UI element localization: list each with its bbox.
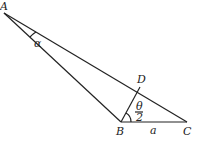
segment-AB bbox=[4, 13, 121, 122]
label-a: a bbox=[150, 124, 157, 137]
label-D: D bbox=[136, 73, 146, 86]
label-two: 2 bbox=[135, 111, 143, 124]
label-alpha: α bbox=[34, 37, 42, 50]
triangle-diagram: A B C D α θ 2 a bbox=[0, 0, 197, 146]
angle-theta-arc bbox=[126, 113, 131, 122]
label-B: B bbox=[115, 125, 124, 138]
label-C: C bbox=[183, 125, 192, 138]
label-A: A bbox=[0, 0, 8, 13]
segment-AC bbox=[4, 13, 187, 122]
